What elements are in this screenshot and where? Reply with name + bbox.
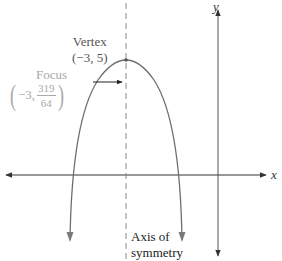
focus-y-numerator: 319 [37,82,56,96]
vertex-label: Vertex (−3, 5) [72,35,108,64]
focus-paren-close: ) [58,80,64,110]
vertex-label-title: Vertex [73,34,107,49]
focus-coordinates: ( −3, 319 64 ) [8,80,66,110]
focus-y-denominator: 64 [41,96,52,109]
focus-paren-open: ( [10,80,16,110]
x-axis-label: x [271,168,277,181]
focus-x-value: −3, [18,87,35,103]
parabola-diagram: Vertex (−3, 5) Focus ( −3, 319 64 ) Axis… [0,0,282,261]
vertex-point [124,58,128,62]
diagram-svg [0,0,282,261]
axis-of-symmetry-line1: Axis of [131,229,183,245]
parabola-left-arrowhead [67,232,74,242]
focus-y-fraction: 319 64 [37,82,56,109]
vertex-coordinates: (−3, 5) [72,51,108,64]
y-axis-label: y [213,0,219,13]
axis-of-symmetry-label: Axis of symmetry [131,229,183,261]
axis-of-symmetry-line2: symmetry [131,245,183,261]
